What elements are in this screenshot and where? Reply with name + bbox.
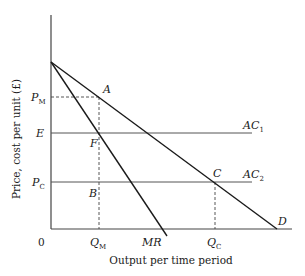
- origin-label: 0: [38, 236, 45, 248]
- ac2-label: AC2: [242, 168, 264, 183]
- y-tick-e: E: [35, 127, 44, 140]
- y-tick-pc: PC: [31, 176, 45, 191]
- x-tick-qm: QM: [90, 236, 106, 251]
- y-tick-pm: PM: [30, 91, 46, 106]
- monopoly-diagram: PM E PC 0 QM MR QC AC1 AC2 D A F B C Out…: [0, 0, 305, 276]
- ac1-label: AC1: [242, 119, 264, 134]
- y-axis-title: Price, cost per unit (£): [10, 79, 22, 199]
- x-axis-title: Output per time period: [109, 254, 233, 266]
- x-tick-mr: MR: [141, 236, 162, 249]
- demand-curve: [51, 62, 277, 229]
- x-tick-qc: QC: [207, 236, 221, 251]
- point-a-label: A: [102, 83, 111, 96]
- point-f-label: F: [89, 137, 98, 150]
- demand-label: D: [277, 215, 287, 228]
- point-b-label: B: [88, 187, 97, 200]
- point-c-label: C: [213, 167, 222, 180]
